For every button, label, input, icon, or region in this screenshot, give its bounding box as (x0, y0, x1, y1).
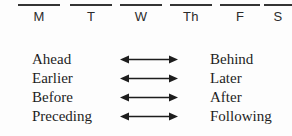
day-cell-monday: M (18, 4, 60, 24)
term-right: After (210, 88, 242, 107)
pair-row: Earlier Later (0, 69, 292, 88)
term-right: Later (210, 69, 242, 88)
day-cell-wednesday: W (120, 4, 162, 24)
day-overline-bar (120, 4, 162, 6)
pair-row: Before After (0, 88, 292, 107)
day-label: W (120, 9, 162, 24)
day-cell-friday: F (220, 4, 260, 24)
double-headed-arrow-icon (120, 53, 178, 66)
term-left: Earlier (32, 69, 73, 88)
term-left: Ahead (32, 50, 71, 69)
double-headed-arrow-icon (120, 110, 178, 123)
opposite-term-pairs: Ahead Behind Earlier Later (0, 50, 292, 126)
day-cell-saturday: S (264, 4, 292, 24)
double-headed-arrow-icon (120, 72, 178, 85)
day-overline-bar (18, 4, 60, 6)
day-overline-bar (70, 4, 112, 6)
term-right: Following (210, 107, 272, 126)
double-headed-arrow-icon (120, 91, 178, 104)
pair-row: Ahead Behind (0, 50, 292, 69)
day-label: M (18, 9, 60, 24)
day-label: Th (170, 9, 212, 24)
figure-canvas: M T W Th F S Ahead (0, 0, 292, 136)
day-overline-bar (220, 4, 260, 6)
day-label: F (220, 9, 260, 24)
term-right: Behind (210, 50, 253, 69)
day-cell-thursday: Th (170, 4, 212, 24)
day-cell-tuesday: T (70, 4, 112, 24)
term-left: Preceding (32, 107, 92, 126)
pair-row: Preceding Following (0, 107, 292, 126)
day-label: S (264, 9, 292, 24)
days-of-week-header: M T W Th F S (0, 4, 292, 34)
term-left: Before (32, 88, 73, 107)
day-label: T (70, 9, 112, 24)
day-overline-bar (170, 4, 212, 6)
day-overline-bar (264, 4, 292, 6)
